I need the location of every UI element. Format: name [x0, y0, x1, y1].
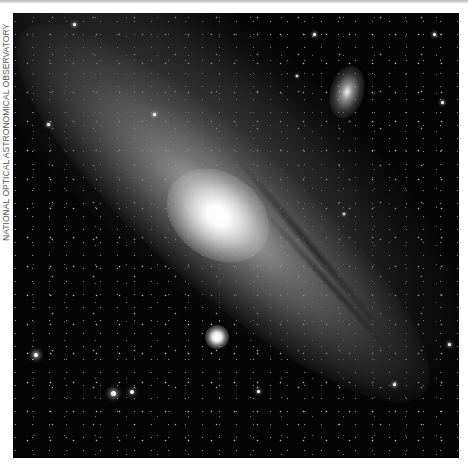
bright-star — [47, 123, 50, 126]
satellite-galaxy-lower — [205, 325, 229, 349]
bright-star — [257, 390, 260, 393]
top-rule-divider — [0, 0, 468, 3]
galaxy-photograph — [13, 13, 459, 458]
bright-star — [153, 113, 156, 116]
bright-star — [343, 213, 345, 215]
bright-star — [73, 23, 76, 26]
bright-star — [111, 391, 116, 396]
bright-star — [441, 101, 444, 104]
bright-star — [296, 75, 298, 77]
bright-star — [130, 390, 134, 394]
bright-star — [313, 33, 316, 36]
bright-star — [448, 343, 451, 346]
bright-star — [433, 33, 436, 36]
bright-star — [393, 383, 396, 386]
photo-credit: NATIONAL OPTICAL ASTRONOMICAL OBSERVATOR… — [1, 24, 11, 241]
bright-star — [34, 353, 38, 357]
